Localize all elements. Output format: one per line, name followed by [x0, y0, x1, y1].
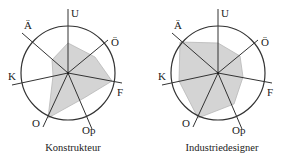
axis-label-f: F — [267, 87, 273, 98]
data-polygon — [48, 43, 112, 118]
axis-label-ae: Ä — [174, 20, 182, 31]
radar-plot — [0, 0, 142, 164]
axis-label-o: O — [32, 118, 40, 129]
axis-label-ae: Ä — [24, 20, 32, 31]
axis-label-f: F — [117, 87, 123, 98]
axis-label-k: K — [8, 71, 16, 82]
chart-title: Industriedesigner — [151, 142, 285, 153]
axis-label-oe: Ö — [261, 37, 269, 48]
data-polygon — [179, 42, 243, 118]
axis-label-k: K — [158, 71, 166, 82]
radar-chart-industriedesigner: U Ö F Op O K Ä Industriedesigner — [143, 0, 285, 164]
axis-label-op: Op — [82, 125, 95, 136]
axis-label-op: Op — [232, 125, 245, 136]
axis-label-u: U — [71, 8, 79, 19]
axis-label-u: U — [221, 8, 229, 19]
radar-plot — [143, 0, 285, 164]
axis-label-o: O — [182, 118, 190, 129]
chart-title: Konstrukteur — [2, 142, 144, 153]
axis-label-oe: Ö — [111, 37, 119, 48]
radar-chart-konstrukteur: U Ö F Op O K Ä Konstrukteur — [0, 0, 142, 164]
